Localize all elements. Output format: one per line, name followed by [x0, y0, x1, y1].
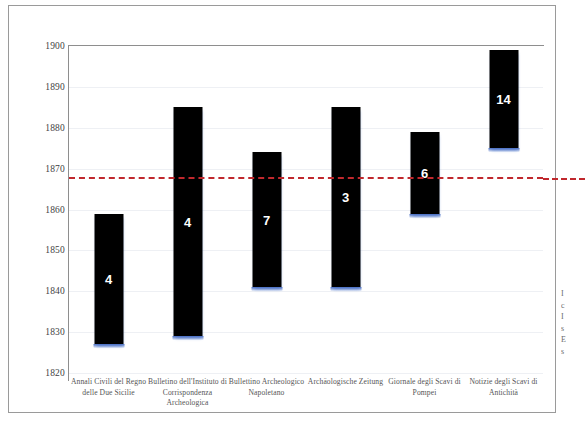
margin-text-line: c: [561, 300, 575, 312]
margin-text-line: E: [561, 334, 575, 346]
chart-object[interactable]: 190018901880187018601850184018301820 447…: [21, 32, 545, 392]
gridline: [69, 373, 543, 374]
bar-value-label: 14: [496, 93, 510, 106]
margin-text-line: I: [561, 288, 575, 300]
bar-value-label: 7: [263, 213, 270, 226]
margin-text-line: I: [561, 311, 575, 323]
reference-line-extension: [543, 178, 585, 180]
y-axis-tick-label: 1880: [25, 123, 65, 133]
bar-shadow: [251, 287, 282, 291]
x-axis-category-label: Bulletino dell'Instituto di Corrisponden…: [142, 377, 232, 409]
margin-text-line: s: [561, 346, 575, 358]
reference-line: [69, 177, 543, 179]
bar-group[interactable]: 6: [385, 46, 464, 373]
margin-text-line: s: [561, 323, 575, 335]
x-axis-category-label: Notizie degli Scavi di Antichità: [458, 377, 548, 398]
x-axis: Annali Civili del Regno delle Due Sicili…: [69, 377, 543, 425]
y-axis: 190018901880187018601850184018301820: [21, 46, 65, 373]
bar-shadow: [330, 287, 361, 291]
y-axis-tick-label: 1840: [25, 286, 65, 296]
x-axis-category-label: Giornale degli Scavi di Pompei: [379, 377, 469, 398]
y-axis-tick-label: 1870: [25, 164, 65, 174]
bar-value-label: 3: [342, 191, 349, 204]
bar-group[interactable]: 4: [69, 46, 148, 373]
bar-value-label: 4: [184, 215, 191, 228]
x-axis-category-label: Annali Civili del Regno delle Due Sicili…: [63, 377, 153, 398]
bar-shadow: [409, 214, 440, 218]
margin-text-fragment: IcIsEs: [561, 288, 575, 357]
x-axis-category-label: Bullettino Archeologico Napoletano: [221, 377, 311, 398]
bar-group[interactable]: 3: [306, 46, 385, 373]
x-axis-category-label: Archäologische Zeitung: [300, 377, 390, 388]
y-axis-tick-label: 1890: [25, 82, 65, 92]
plot-area: 4473614: [69, 46, 543, 373]
y-axis-tick-label: 1860: [25, 205, 65, 215]
bar-value-label: 4: [105, 272, 112, 285]
page-frame: 190018901880187018601850184018301820 447…: [8, 5, 556, 413]
bar-group[interactable]: 4: [148, 46, 227, 373]
y-axis-tick-label: 1830: [25, 327, 65, 337]
bar-shadow: [488, 148, 519, 152]
bar-group[interactable]: 7: [227, 46, 306, 373]
y-axis-tick-label: 1850: [25, 245, 65, 255]
y-axis-tick-label: 1900: [25, 41, 65, 51]
bar-shadow: [93, 344, 124, 348]
y-axis-tick-label: 1820: [25, 368, 65, 378]
bar-shadow: [172, 336, 203, 340]
bar-group[interactable]: 14: [464, 46, 543, 373]
